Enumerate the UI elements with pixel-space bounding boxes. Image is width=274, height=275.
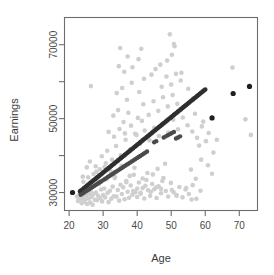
data-point	[187, 192, 192, 197]
data-point	[137, 180, 142, 185]
data-point	[172, 44, 177, 49]
data-point	[131, 189, 136, 194]
data-point	[129, 123, 134, 128]
data-point	[159, 187, 164, 192]
plot-canvas: 203040506070 300005000070000 Age Earning…	[0, 0, 274, 275]
data-point	[81, 180, 86, 185]
data-point	[153, 67, 158, 72]
data-point	[154, 196, 159, 201]
data-point	[198, 188, 203, 193]
data-point	[105, 148, 110, 153]
data-point	[154, 185, 159, 190]
data-point	[163, 161, 168, 166]
data-point	[115, 188, 120, 193]
data-point	[137, 90, 142, 95]
data-point	[124, 180, 129, 185]
data-point	[166, 194, 171, 199]
data-point	[135, 195, 140, 200]
data-point	[131, 172, 136, 177]
data-point	[184, 186, 189, 191]
data-point	[155, 167, 160, 172]
data-point	[91, 172, 96, 177]
data-point	[129, 80, 134, 85]
data-point	[136, 116, 141, 121]
data-point	[170, 188, 175, 193]
data-point	[170, 93, 175, 98]
data-point	[190, 129, 195, 134]
data-point	[148, 194, 153, 199]
data-point	[108, 188, 113, 193]
data-point	[179, 71, 184, 76]
data-point	[139, 46, 144, 51]
data-point	[200, 124, 205, 129]
data-point	[185, 123, 190, 128]
data-point	[157, 134, 162, 139]
data-point	[120, 192, 125, 197]
data-point	[104, 161, 109, 166]
data-point	[112, 176, 117, 181]
data-point	[156, 109, 161, 114]
data-point	[193, 112, 198, 117]
y-tick-label: 30000	[48, 178, 59, 206]
data-point	[247, 84, 252, 89]
data-point	[125, 189, 130, 194]
data-point	[201, 119, 206, 124]
data-point	[149, 72, 154, 77]
data-point	[93, 164, 98, 169]
data-point	[190, 183, 195, 188]
data-point	[117, 64, 122, 69]
data-point	[175, 102, 180, 107]
x-tick-label: 60	[200, 220, 212, 231]
data-point	[164, 74, 169, 79]
data-point	[125, 54, 130, 59]
data-point	[134, 133, 139, 138]
data-point	[206, 131, 211, 136]
data-point	[249, 133, 254, 138]
data-point	[166, 104, 171, 109]
data-point	[114, 91, 119, 96]
data-point	[170, 52, 175, 57]
data-point	[163, 189, 168, 194]
data-point	[97, 167, 102, 172]
data-point	[150, 182, 155, 187]
data-point	[142, 196, 147, 201]
data-point	[178, 78, 183, 83]
data-point	[127, 174, 132, 179]
data-point	[168, 32, 173, 37]
data-point	[106, 130, 111, 135]
data-point	[169, 82, 174, 87]
data-point	[194, 197, 199, 202]
data-point	[189, 197, 194, 202]
data-point	[123, 131, 128, 136]
data-point	[146, 113, 151, 118]
data-point	[120, 86, 125, 91]
data-point	[230, 65, 235, 70]
data-point	[118, 46, 123, 51]
data-point	[99, 154, 104, 159]
data-point	[189, 167, 194, 172]
data-point	[103, 195, 108, 200]
data-point	[141, 102, 146, 107]
data-point	[85, 165, 90, 170]
data-point	[186, 86, 191, 91]
data-point	[132, 165, 137, 170]
x-tick-label: 20	[64, 220, 76, 231]
data-point	[169, 181, 174, 186]
data-point	[130, 65, 135, 70]
data-point	[195, 136, 200, 141]
data-point	[159, 191, 164, 196]
data-point	[178, 134, 182, 138]
data-point	[80, 174, 85, 179]
data-point	[204, 139, 209, 144]
data-point	[121, 120, 126, 125]
data-point	[206, 163, 211, 168]
x-tick-label: 50	[166, 220, 178, 231]
data-point	[114, 194, 119, 199]
y-tick-label: 50000	[48, 104, 59, 132]
data-point	[114, 144, 119, 149]
data-point	[203, 87, 208, 92]
data-point	[102, 186, 107, 191]
data-point	[193, 177, 198, 182]
data-point	[123, 137, 128, 142]
data-point	[177, 185, 182, 190]
